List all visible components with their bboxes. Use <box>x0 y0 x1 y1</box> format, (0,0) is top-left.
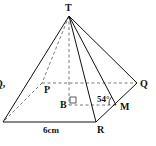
label-R: R <box>97 124 105 135</box>
label-angle: 54° <box>97 94 110 104</box>
edge-TR <box>69 16 96 122</box>
pyramid-diagram: T P Q B M R 54° 6cm Q, <box>0 0 156 146</box>
visible-edges <box>3 16 137 122</box>
slant-TM <box>69 16 116 105</box>
label-Q: Q <box>140 78 148 89</box>
edge-TP <box>42 16 69 83</box>
label-edge-length: 6cm <box>43 125 59 135</box>
label-cut-left: Q, <box>0 78 6 89</box>
label-B: B <box>60 99 67 110</box>
edge-TQ <box>69 16 137 83</box>
label-T: T <box>65 2 72 13</box>
right-angle-marker <box>70 97 76 103</box>
edge-P-front-left <box>3 83 42 122</box>
hidden-edges <box>3 16 137 122</box>
label-M: M <box>120 101 130 112</box>
label-P: P <box>44 84 50 95</box>
